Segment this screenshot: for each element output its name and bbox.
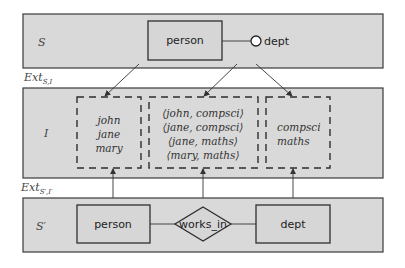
person-value: john bbox=[95, 114, 120, 126]
person-value: mary bbox=[95, 142, 123, 154]
dept-value: compsci bbox=[277, 121, 321, 133]
pair-value: ⟨mary, maths⟩ bbox=[166, 149, 239, 161]
pair-value: ⟨jane, maths⟩ bbox=[168, 135, 238, 147]
schema-s-prime-label: S′ bbox=[36, 220, 47, 233]
ext-bottom-base: Ext bbox=[20, 181, 40, 194]
svg-text:ExtS,I: ExtS,I bbox=[23, 71, 52, 86]
schema-mapping-diagram: S person dept ExtS,I I john jane mary ⟨j… bbox=[0, 0, 405, 268]
pair-value: ⟨john, compsci⟩ bbox=[162, 107, 243, 119]
svg-text:ExtS′,I′: ExtS′,I′ bbox=[20, 181, 53, 196]
works-in-label: works_in bbox=[179, 218, 227, 231]
ext-bottom-subscript: S′,I′ bbox=[40, 188, 53, 196]
instance-i-panel: I john jane mary ⟨john, compsci⟩ ⟨jane, … bbox=[23, 88, 383, 178]
dept-entity-label-prime: dept bbox=[280, 218, 306, 231]
attribute-circle-icon bbox=[251, 36, 261, 46]
instance-i-label: I bbox=[43, 127, 49, 140]
pair-value: ⟨jane, compsci⟩ bbox=[163, 121, 244, 133]
person-entity-label: person bbox=[166, 34, 204, 47]
person-entity-label-prime: person bbox=[94, 218, 132, 231]
schema-s-label: S bbox=[38, 36, 46, 49]
schema-s-panel: S person dept bbox=[23, 14, 383, 68]
dept-attribute-label: dept bbox=[264, 35, 290, 48]
dept-value: maths bbox=[277, 135, 310, 147]
ext-top-base: Ext bbox=[23, 71, 43, 84]
person-value: jane bbox=[96, 128, 121, 140]
schema-s-prime-panel: S′ person works_in dept bbox=[23, 198, 383, 252]
ext-top-subscript: S,I bbox=[43, 78, 53, 86]
ext-s-i-label: ExtS,I bbox=[23, 71, 52, 86]
ext-s-prime-i-prime-label: ExtS′,I′ bbox=[20, 181, 53, 196]
